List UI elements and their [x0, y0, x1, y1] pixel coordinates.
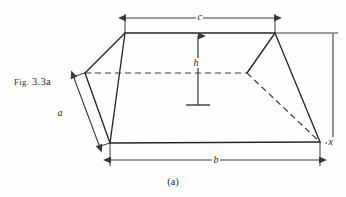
figure-number-label: Fig. 3.3a [14, 76, 51, 87]
frustum-hidden-edges [85, 73, 320, 142]
dimension-x [274, 33, 338, 143]
edge-left-front [110, 33, 125, 143]
figure-caption: (a) [0, 176, 346, 187]
dimension-h [186, 36, 210, 105]
figure-label-prefix: Fig. [14, 77, 29, 87]
dimension-label-x: x [327, 137, 334, 147]
dim-line-a [74, 78, 99, 145]
figure-label-number: 3.3a [32, 76, 51, 87]
edge-right-back-upper [247, 33, 275, 73]
frustum-solid-edges [85, 33, 320, 143]
edge-left-back-lower [85, 73, 110, 143]
ext-line-a-top [72, 73, 85, 77]
edge-bottom [110, 142, 320, 143]
figure-drawing [0, 0, 346, 197]
dimension-label-a: a [56, 108, 64, 118]
dimension-label-c: c [196, 12, 203, 22]
figure-container: Fig. 3.3a c b a h x (a) [0, 0, 346, 197]
edge-right-front [275, 33, 320, 142]
dimension-a [72, 73, 110, 147]
hidden-edge-back-right-diagonal [247, 73, 320, 142]
dimension-label-h: h [192, 58, 200, 68]
dimension-label-b: b [212, 155, 220, 165]
edge-left-back-upper [85, 33, 125, 73]
